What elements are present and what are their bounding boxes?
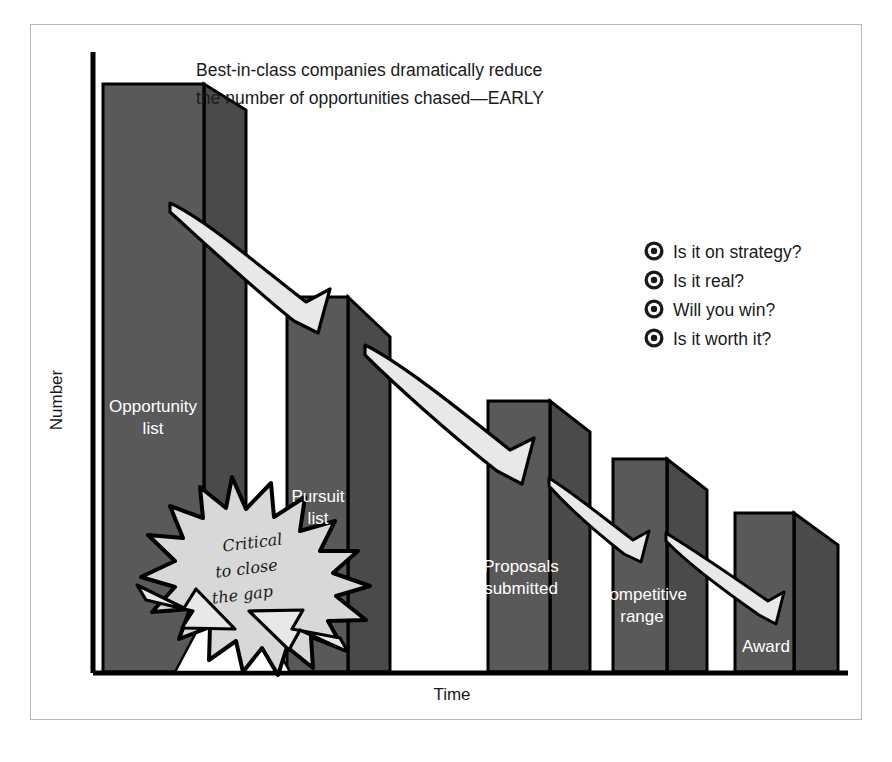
bar-label-competitive-range-line1: Competitive: [597, 585, 687, 604]
title-line-2: the number of opportunities chased—EARLY: [196, 88, 544, 108]
bullseye-icon: [645, 300, 664, 319]
bar-label-proposals-submitted-line2: submitted: [484, 579, 558, 598]
checklist-item-label: Is it real?: [673, 271, 744, 291]
checklist-item-2[interactable]: Is it real?: [645, 271, 745, 292]
bar-proposals-submitted[interactable]: [488, 401, 590, 672]
bar-label-award: Award: [742, 637, 790, 656]
checklist-item-label: Is it worth it?: [673, 329, 771, 349]
bar-label-competitive-range-line2: range: [620, 607, 663, 626]
checklist-item-1[interactable]: Is it on strategy?: [645, 242, 802, 263]
checklist-item-label: Will you win?: [673, 300, 775, 320]
funnel-bar-chart: Critical to close the gap Opportunity li…: [0, 0, 892, 762]
y-axis-label: Number: [47, 369, 66, 430]
bar-label-opportunity-list-line1: Opportunity: [109, 397, 197, 416]
bar-front-face: [613, 459, 667, 672]
checklist-group: Is it on strategy? Is it real? Will you …: [645, 242, 802, 350]
checklist-item-4[interactable]: Is it worth it?: [645, 329, 772, 350]
bullseye-icon: [645, 242, 664, 261]
x-axis-label: Time: [433, 685, 470, 704]
checklist-item-label: Is it on strategy?: [673, 242, 802, 262]
bar-label-pursuit-list-line1: Pursuit: [292, 487, 345, 506]
figure-root: Critical to close the gap Opportunity li…: [0, 0, 892, 762]
bar-label-pursuit-list-line2: list: [308, 509, 329, 528]
checklist-item-3[interactable]: Will you win?: [645, 300, 776, 321]
bullseye-icon: [645, 329, 664, 348]
bar-side-face: [550, 401, 590, 672]
bar-label-proposals-submitted-line1: Proposals: [483, 557, 559, 576]
bar-side-face: [794, 513, 838, 672]
chart-title: Best-in-class companies dramatically red…: [196, 60, 544, 108]
bullseye-icon: [645, 271, 664, 290]
title-line-1: Best-in-class companies dramatically red…: [196, 60, 542, 80]
bar-label-opportunity-list-line2: list: [143, 419, 164, 438]
